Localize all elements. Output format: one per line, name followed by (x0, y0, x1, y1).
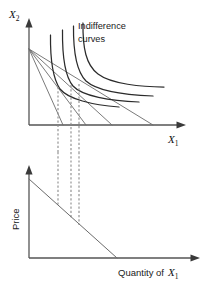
indifference-curve-4 (83, 23, 164, 87)
x-axis-arrow-icon (177, 121, 187, 128)
quantity-axis-label: Quantity ofX1 (118, 266, 179, 281)
indifference-curves-annotation-line1: Indifference (78, 21, 126, 31)
indifference-curves-group (50, 23, 164, 107)
top-y-axis-label: X2 (8, 8, 20, 23)
budget-lines-group (29, 49, 153, 125)
demand-curve-line (29, 179, 117, 258)
top-panel: X2 X1 Indifference curves (8, 8, 186, 152)
price-axis-label: Price (10, 208, 21, 230)
top-panel-y-axis (25, 18, 32, 125)
budget-line-4 (29, 49, 153, 125)
economics-figure: X2 X1 Indifference curves (0, 0, 211, 295)
bottom-panel: Price Quantity ofX1 (10, 152, 200, 281)
droplines-top-group (58, 84, 79, 152)
top-x-axis-label: X1 (167, 133, 179, 148)
indifference-curves-annotation-line2: curves (78, 34, 105, 44)
top-panel-x-axis (29, 121, 186, 128)
quantity-axis-arrow-icon (191, 254, 201, 261)
price-axis-arrow-icon (25, 165, 32, 175)
figure-canvas: X2 X1 Indifference curves (0, 0, 211, 295)
y-axis-arrow-icon (25, 18, 32, 28)
